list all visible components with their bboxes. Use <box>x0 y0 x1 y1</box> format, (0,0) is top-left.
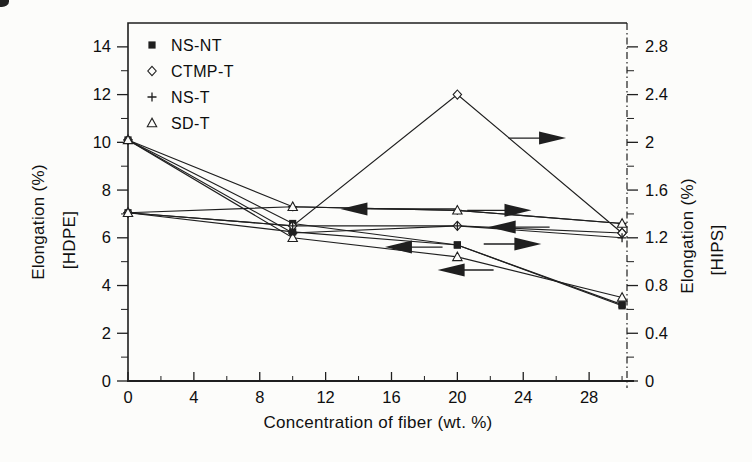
legend: NS-NTCTMP-TNS-TSD-T <box>147 37 234 132</box>
left-arrow-icon <box>385 241 412 254</box>
y-left-tick-label: 12 <box>93 85 111 103</box>
left-arrow-icon <box>340 202 367 215</box>
right-arrow-icon <box>514 238 541 251</box>
legend-label: CTMP-T <box>171 63 234 80</box>
y-left-tick-label: 2 <box>102 324 111 342</box>
right-arrow-icon <box>539 132 566 145</box>
legend-label: NS-T <box>171 89 210 106</box>
y-left-tick-label: 6 <box>102 228 111 246</box>
y-axis-left-title: Elongation (%) <box>29 164 49 280</box>
y-right-tick-label: 1.2 <box>645 228 668 246</box>
y-left-tick-label: 8 <box>102 181 111 199</box>
x-tick-label: 24 <box>514 388 532 406</box>
x-tick-label: 20 <box>448 388 466 406</box>
y-right-tick-label: 2.8 <box>645 37 668 55</box>
x-tick-label: 0 <box>123 388 132 406</box>
left-arrow-icon <box>489 221 516 234</box>
y-left-tick-label: 0 <box>102 372 111 390</box>
x-tick-label: 28 <box>580 388 598 406</box>
y-axis-right-title: Elongation (%) <box>678 178 698 294</box>
y-right-tick-label: 1.6 <box>645 181 668 199</box>
figure-canvas: 04812162024280246810121400.40.81.21.622.… <box>0 0 752 462</box>
y-left-tick-label: 14 <box>93 37 111 55</box>
legend-label: SD-T <box>171 115 210 132</box>
y-right-tick-label: 0 <box>645 372 654 390</box>
x-axis-ticks: 0481216202428 <box>123 372 622 406</box>
y-axis-right-ticks: 00.40.81.21.622.42.8 <box>627 37 668 389</box>
y-left-tick-label: 10 <box>93 133 111 151</box>
y-axis-right-subtitle: [HIPS] <box>708 225 728 276</box>
legend-label: NS-NT <box>171 37 222 54</box>
x-tick-label: 12 <box>316 388 334 406</box>
y-right-tick-label: 0.4 <box>645 324 668 342</box>
y-right-tick-label: 0.8 <box>645 276 668 294</box>
series-line-ns-nt-hdpe- <box>128 140 622 305</box>
annotation-arrows <box>340 132 566 277</box>
y-axis-left-ticks: 02468101214 <box>93 37 128 389</box>
left-arrow-icon <box>438 264 465 277</box>
x-tick-label: 8 <box>255 388 264 406</box>
elongation-chart: 04812162024280246810121400.40.81.21.622.… <box>0 0 752 462</box>
x-axis-title: Concentration of fiber (wt. %) <box>263 413 492 433</box>
y-right-tick-label: 2 <box>645 133 654 151</box>
y-left-tick-label: 4 <box>102 276 111 294</box>
x-tick-label: 16 <box>382 388 400 406</box>
y-right-tick-label: 2.4 <box>645 85 668 103</box>
y-axis-left-subtitle: [HDPE] <box>60 211 80 269</box>
x-tick-label: 4 <box>189 388 198 406</box>
